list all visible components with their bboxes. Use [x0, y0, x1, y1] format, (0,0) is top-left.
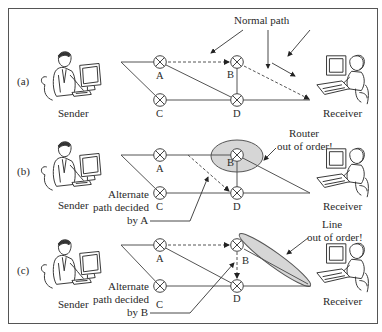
router-out-label-1: Router	[289, 127, 319, 139]
node-d-label: D	[233, 293, 241, 304]
node-d-label: D	[233, 201, 241, 212]
router-d-icon	[231, 94, 244, 107]
line-out-label-1: Line	[322, 218, 342, 230]
alt-b-label-2: path decided	[93, 293, 149, 305]
alt-b-label-1: Alternate	[108, 280, 149, 292]
router-c-icon	[154, 94, 167, 107]
router-b-icon	[231, 56, 244, 69]
node-c-label: C	[156, 108, 163, 119]
node-b-label: B	[227, 157, 234, 168]
router-d-icon	[231, 187, 244, 200]
normal-path-label: Normal path	[234, 14, 290, 26]
receiver-label: Receiver	[323, 200, 362, 212]
routing-diagram: (a) Sender A B C D Normal path Receiver …	[0, 0, 382, 332]
panel-b-label: (b)	[17, 165, 30, 178]
node-b-label: B	[227, 69, 234, 80]
sender-label: Sender	[58, 199, 89, 211]
alt-a-label-3: by A	[127, 214, 148, 226]
line-out-label-2: out of order!	[307, 231, 363, 243]
node-b-label: B	[242, 255, 249, 266]
router-c-icon	[154, 280, 167, 293]
router-a-icon	[154, 149, 167, 162]
sender-label: Sender	[58, 298, 89, 310]
alt-a-label-2: path decided	[93, 201, 149, 213]
alt-a-label-1: Alternate	[108, 188, 149, 200]
receiver-label: Receiver	[323, 107, 362, 119]
node-c-label: C	[156, 201, 163, 212]
node-a-label: A	[156, 163, 164, 174]
router-c-icon	[154, 187, 167, 200]
sender-label: Sender	[58, 107, 89, 119]
receiver-label: Receiver	[323, 295, 362, 307]
router-b-icon	[231, 239, 244, 252]
panel-a-label: (a)	[17, 75, 30, 88]
node-a-label: A	[156, 253, 164, 264]
router-d-icon	[231, 280, 244, 293]
alt-b-label-3: by B	[127, 306, 148, 318]
panel-c-label: (c)	[17, 264, 30, 277]
router-a-icon	[154, 56, 167, 69]
router-out-label-2: out of order!	[277, 140, 333, 152]
router-a-icon	[154, 239, 167, 252]
node-d-label: D	[233, 108, 241, 119]
node-c-label: C	[156, 299, 163, 310]
node-a-label: A	[156, 70, 164, 81]
